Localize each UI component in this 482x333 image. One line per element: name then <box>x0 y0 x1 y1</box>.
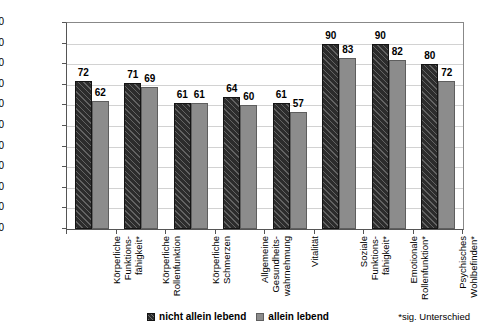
legend-item: allein lebend <box>256 310 329 324</box>
y-tick-label: 20 <box>0 182 4 192</box>
x-tick-mark <box>66 229 67 234</box>
x-tick-mark <box>116 229 117 234</box>
bar <box>421 64 438 229</box>
bar-value-label: 90 <box>316 31 345 41</box>
bar <box>273 103 290 229</box>
bar-value-label: 61 <box>185 90 214 100</box>
bar <box>290 112 307 229</box>
x-tick-mark <box>165 229 166 234</box>
legend-swatch <box>147 313 155 321</box>
y-tick-label: 60 <box>0 99 4 109</box>
bar <box>339 58 356 229</box>
x-tick-mark <box>215 229 216 234</box>
y-tick-label: 50 <box>0 120 4 130</box>
legend-label: allein lebend <box>268 311 329 322</box>
y-tick-label: 30 <box>0 161 4 171</box>
bar <box>92 101 109 229</box>
bar <box>174 103 191 229</box>
bar <box>372 44 389 229</box>
bar <box>141 87 158 229</box>
x-tick-mark <box>413 229 414 234</box>
y-tick-label: 100 <box>0 17 4 27</box>
bar-value-label: 72 <box>69 68 98 78</box>
bar <box>75 81 92 229</box>
bar-value-label: 90 <box>366 31 395 41</box>
legend-swatch <box>256 313 264 321</box>
bar-value-label: 72 <box>432 68 461 78</box>
significance-footnote: *sig. Unterschied <box>398 311 470 323</box>
bar-value-label: 83 <box>333 45 362 55</box>
x-tick-mark <box>462 229 463 234</box>
y-tick-label: 70 <box>0 79 4 89</box>
x-tick-mark <box>363 229 364 234</box>
bar-value-label: 69 <box>135 74 164 84</box>
legend-label: nicht allein lebend <box>159 311 246 322</box>
y-tick-label: 0 <box>0 223 4 233</box>
bar <box>223 97 240 229</box>
bar <box>322 44 339 229</box>
x-tick-mark <box>314 229 315 234</box>
bar <box>438 81 455 229</box>
bar <box>389 60 406 229</box>
bar-value-label: 62 <box>86 88 115 98</box>
y-tick-label: 80 <box>0 58 4 68</box>
bar-value-label: 80 <box>415 51 444 61</box>
bar-value-label: 82 <box>383 47 412 57</box>
bar <box>124 83 141 229</box>
bar <box>240 105 257 229</box>
y-tick-label: 90 <box>0 38 4 48</box>
bar-value-label: 57 <box>284 99 313 109</box>
y-tick-label: 40 <box>0 141 4 151</box>
legend-item: nicht allein lebend <box>147 310 246 324</box>
x-tick-mark <box>264 229 265 234</box>
bar-value-label: 60 <box>234 92 263 102</box>
y-tick-label: 10 <box>0 202 4 212</box>
gridline <box>67 44 463 45</box>
plot-area: 72627169616164606157908390828072 <box>66 22 464 230</box>
bar <box>191 103 208 229</box>
